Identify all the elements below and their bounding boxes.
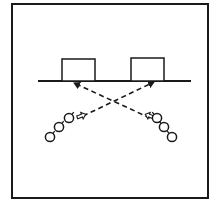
player-icon [152,112,161,122]
pass-right-to-left [74,83,150,118]
player-groups [45,112,176,141]
player-icon [54,121,63,131]
right-group [152,112,176,141]
player-icon [159,121,168,131]
movement-arrows [76,111,155,121]
player-icon [167,131,176,141]
hollow-arrow-icon [76,111,87,121]
pass-left-to-right [83,82,154,116]
drill-diagram [0,0,217,206]
player-icon [64,112,73,122]
goal-boxes [62,58,164,81]
left-group [45,112,73,141]
frame-border [12,4,208,198]
left-box [62,59,95,81]
pass-paths [74,82,154,118]
diagram-frame [12,4,208,198]
right-box [131,58,164,81]
player-icon [45,131,54,141]
